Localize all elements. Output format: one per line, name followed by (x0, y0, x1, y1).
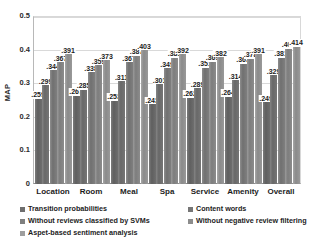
legend-item[interactable]: Without negative review filtering (188, 215, 305, 227)
bar-slot: .285 (80, 17, 87, 184)
bar[interactable]: .367 (126, 61, 133, 184)
bar[interactable]: .381 (278, 57, 285, 184)
bar[interactable]: .387 (133, 55, 140, 184)
chart-legend: Transition probabilitiesContent wordsWit… (20, 203, 305, 239)
bar[interactable]: .359 (95, 64, 102, 184)
bar[interactable]: .253 (111, 100, 118, 185)
bar[interactable]: .403 (141, 49, 148, 184)
bar[interactable]: .329 (270, 74, 277, 184)
bar-slot: .387 (133, 17, 140, 184)
legend-item[interactable]: Without reviews classified by SVMs (20, 215, 188, 227)
bar-group-location: .259.299.344.367.391 (34, 17, 72, 184)
bar-slot: .378 (247, 17, 254, 184)
bar-slot: .367 (57, 17, 64, 184)
bar[interactable]: .259 (35, 98, 42, 185)
bar[interactable]: .363 (240, 63, 247, 184)
bar-slot: .381 (171, 17, 178, 184)
bar[interactable]: .262 (187, 97, 194, 185)
bar-slot: .262 (187, 17, 194, 184)
legend-label: Transition probabilities (28, 205, 107, 212)
bar-slot: .414 (293, 17, 300, 184)
legend-label: Without negative review filtering (196, 217, 307, 224)
bar-slot: .363 (240, 17, 247, 184)
bar[interactable]: .349 (164, 67, 171, 184)
bar-slot: .264 (225, 17, 232, 184)
bar[interactable]: .378 (247, 58, 254, 184)
x-tick-label-room: Room (72, 187, 110, 196)
bar[interactable]: .351 (202, 67, 209, 184)
legend-swatch-icon (20, 207, 25, 212)
bar[interactable]: .408 (285, 48, 292, 184)
bar-slot: .314 (232, 17, 239, 184)
bar[interactable]: .382 (217, 56, 224, 184)
bar-groups: .259.299.344.367.391.267.285.338.359.373… (34, 17, 300, 184)
x-tick-label-amenity: Amenity (224, 187, 262, 196)
bar[interactable]: .285 (80, 89, 87, 184)
bar-slot: .369 (209, 17, 216, 184)
bar[interactable]: .249 (263, 101, 270, 184)
bar-slot: .351 (202, 17, 209, 184)
bar-slot: .243 (149, 17, 156, 184)
bar[interactable]: .299 (42, 84, 49, 184)
x-tick-label-overall: Overall (262, 187, 300, 196)
bar[interactable]: .391 (65, 53, 72, 184)
bar-slot: .392 (179, 17, 186, 184)
bar-group-meal: .253.311.367.387.403 (110, 17, 148, 184)
bar-slot: .249 (263, 17, 270, 184)
legend-swatch-icon (20, 219, 25, 224)
bar-slot: .301 (156, 17, 163, 184)
bar[interactable]: .367 (57, 61, 64, 184)
y-tick-label: 0.4 (4, 46, 30, 54)
bar-group-spa: .243.301.349.381.392 (148, 17, 186, 184)
bar-slot: .311 (118, 17, 125, 184)
bar[interactable]: .381 (171, 57, 178, 184)
bar[interactable]: .301 (156, 83, 163, 184)
y-tick-label: 0 (4, 180, 30, 188)
bar-slot: .373 (103, 17, 110, 184)
legend-item[interactable]: Content words (188, 203, 305, 215)
bar[interactable]: .289 (194, 87, 201, 184)
legend-swatch-icon (188, 207, 193, 212)
bar-slot: .338 (88, 17, 95, 184)
bar-slot: .299 (42, 17, 49, 184)
bar[interactable]: .369 (209, 61, 216, 184)
bar[interactable]: .311 (118, 80, 125, 184)
bar[interactable]: .391 (255, 53, 262, 184)
bar[interactable]: .414 (293, 46, 300, 184)
bar[interactable]: .344 (50, 69, 57, 184)
bar-value-label: .414 (289, 39, 304, 46)
bar[interactable]: .267 (73, 95, 80, 184)
bar-slot: .253 (111, 17, 118, 184)
x-tick-label-spa: Spa (148, 187, 186, 196)
legend-swatch-icon (188, 219, 193, 224)
x-axis-categories: LocationRoomMealSpaServiceAmenityOverall (34, 187, 300, 196)
bar-slot: .391 (65, 17, 72, 184)
bar[interactable]: .243 (149, 103, 156, 184)
bar-group-amenity: .264.314.363.378.391 (224, 17, 262, 184)
legend-label: Aspet-based sentiment analysis (28, 229, 137, 236)
bar-slot: .329 (270, 17, 277, 184)
bar-chart: 00.10.20.30.40.5 MAP .259.299.344.367.39… (0, 0, 311, 248)
x-tick-label-meal: Meal (110, 187, 148, 196)
bar-slot: .289 (194, 17, 201, 184)
legend-swatch-icon (20, 231, 25, 236)
bar-slot: .359 (95, 17, 102, 184)
legend-item[interactable]: Aspet-based sentiment analysis (20, 227, 188, 239)
bar-slot: .367 (126, 17, 133, 184)
y-tick-label: 0.5 (4, 12, 30, 20)
y-axis-title: MAP (3, 70, 12, 116)
bar-group-overall: .249.329.381.408.414 (262, 17, 300, 184)
legend-item[interactable]: Transition probabilities (20, 203, 188, 215)
bar[interactable]: .314 (232, 79, 239, 184)
bar-slot: .259 (35, 17, 42, 184)
legend-label: Content words (196, 205, 246, 212)
bar[interactable]: .264 (225, 96, 232, 184)
bar[interactable]: .392 (179, 53, 186, 184)
bar[interactable]: .338 (88, 71, 95, 184)
bar[interactable]: .373 (103, 59, 110, 184)
bar-group-room: .267.285.338.359.373 (72, 17, 110, 184)
x-tick-label-location: Location (34, 187, 72, 196)
bar-slot: .344 (50, 17, 57, 184)
bar-slot: .382 (217, 17, 224, 184)
bar-slot: .349 (164, 17, 171, 184)
